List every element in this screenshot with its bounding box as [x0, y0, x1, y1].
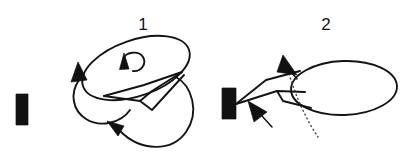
bottom-loop-arrow-head	[107, 121, 124, 136]
tilted-ellipse	[74, 23, 198, 112]
panel-2-group	[222, 55, 398, 137]
wedge2-mid-edge	[236, 91, 305, 104]
panel-label-2: 2	[321, 15, 330, 34]
panel-1-group	[71, 23, 198, 147]
left-loop-arrow-curve	[74, 80, 130, 124]
wedge-upper-edge	[104, 72, 182, 96]
panel-label-1: 1	[138, 15, 147, 34]
horizontal-ellipse	[290, 59, 398, 117]
upper-arrowhead	[277, 55, 297, 75]
black-bar-left	[16, 94, 28, 125]
spin-arrow-head	[120, 53, 130, 70]
wedge-fold-edge	[140, 75, 184, 110]
diagram-canvas: 1 2	[0, 0, 415, 161]
figure-root: 1 2	[0, 0, 415, 161]
lower-arrowhead-tail	[262, 116, 272, 127]
black-bar-right	[222, 88, 236, 119]
